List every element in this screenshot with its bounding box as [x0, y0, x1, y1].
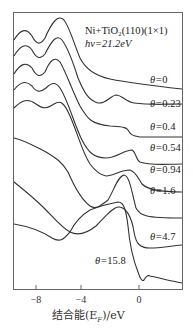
- x-tick-label-neg4: −4: [76, 294, 87, 305]
- curve-theta-15.8: [14, 202, 182, 283]
- x-axis-label: 结合能(EF)/eV: [52, 306, 125, 324]
- legend-theta-0.54: θ=0.54: [150, 142, 181, 153]
- legend-theta-15.8: θ=15.8: [95, 255, 126, 266]
- legend-theta-0: θ=0: [150, 74, 168, 85]
- x-tick-label-neg8: −8: [31, 294, 42, 305]
- legend-theta-4.7: θ=4.7: [150, 231, 175, 242]
- x-tick-label-0: 0: [137, 294, 142, 305]
- legend-theta-0.4: θ=0.4: [150, 121, 175, 132]
- chart-title: Ni+TiO₂(110)(1×1): [85, 25, 167, 36]
- x-ticks: [36, 285, 139, 289]
- legend-theta-1.6: θ=1.6: [150, 185, 175, 196]
- legend-theta-0.94: θ=0.94: [150, 164, 181, 175]
- legend-theta-0.23: θ=0.23: [150, 98, 181, 109]
- photon-energy-annotation: hν=21.2eV: [85, 38, 131, 49]
